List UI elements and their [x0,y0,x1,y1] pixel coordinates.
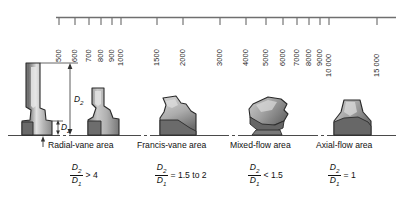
denominator-subscript: 1 [78,180,81,187]
turbine-runner-specific-speed-figure: 500 600 700 800 900 1000 1500 2000 3000 … [0,0,403,211]
axis-tick-label-1000: 1000 [116,49,125,66]
axis-tick-label-1500: 1500 [152,49,161,66]
axial-flow-runner [334,100,371,135]
fraction-numerator: D2 [249,163,261,175]
fraction-d2-over-d1: D2 D1 [248,163,261,187]
denominator-subscript: 1 [256,180,259,187]
axis-tick-label-900: 900 [107,49,116,62]
ratio-relation: = 1 [344,170,356,180]
fraction-numerator: D2 [71,163,83,175]
axis-tick-label-15000: 15 000 [372,54,381,77]
area-label-francis-vane: Francis-vane area [137,140,206,150]
radial-vane-runner [22,63,52,135]
mixed-flow-runner [249,97,288,135]
axis-tick-label-5000: 5000 [261,49,270,66]
francis-vane-runner [88,88,119,135]
dimension-large-d2-subscript: 2 [80,99,83,106]
axis-tick-label-2000: 2000 [178,49,187,66]
axis-tick-label-9000: 9000 [315,49,324,66]
axis-line-group [56,18,396,26]
area-label-mixed-flow: Mixed-flow area [230,140,291,150]
numerator-subscript: 2 [256,167,259,174]
ratio-formula-mixed-flow: D2 D1 < 1.5 [248,163,283,187]
fraction-denominator: D1 [329,176,341,188]
dimension-small-d2-subscript: 2 [67,127,70,134]
axis-tick-label-800: 800 [96,49,105,62]
francis-vane-runner-wide [160,96,196,135]
axis-tick-label-6000: 6000 [278,49,287,66]
fraction-numerator: D2 [156,163,168,175]
fraction-d2-over-d1: D2 D1 [155,163,168,187]
axis-tick-label-8000: 8000 [304,49,313,66]
ratio-relation: < 1.5 [264,170,283,180]
fraction-d2-over-d1: D2 D1 [70,163,83,187]
axis-tick-label-700: 700 [84,49,93,62]
dimension-label-large-d2: D2 [74,94,84,106]
ratio-formula-axial-flow: D2 D1 = 1 [328,163,356,187]
axis-tick-label-7000: 7000 [292,49,301,66]
radial-area-pointer-arrow [41,136,45,147]
numerator-subscript: 2 [78,167,81,174]
axis-tick-label-3000: 3000 [215,49,224,66]
denominator-subscript: 1 [163,180,166,187]
axis-tick-label-500: 500 [54,49,63,62]
fraction-d2-over-d1: D2 D1 [328,163,341,187]
ratio-formula-francis-vane: D2 D1 = 1.5 to 2 [155,163,207,187]
area-label-axial-flow: Axial-flow area [316,140,372,150]
area-label-radial-vane: Radial-vane area [48,140,113,150]
ratio-formula-radial-vane: D2 D1 > 4 [70,163,98,187]
axis-tick-label-4000: 4000 [241,49,250,66]
fraction-denominator: D1 [249,176,261,188]
fraction-denominator: D1 [71,176,83,188]
axis-tick-label-600: 600 [70,49,79,62]
ratio-relation: = 1.5 to 2 [171,170,207,180]
axis-tick-label-10000: 10 000 [324,54,333,77]
fraction-denominator: D1 [156,176,168,188]
numerator-subscript: 2 [163,167,166,174]
fraction-numerator: D2 [329,163,341,175]
numerator-subscript: 2 [336,167,339,174]
dimension-label-small-d2: D2 [61,122,71,134]
denominator-subscript: 1 [336,180,339,187]
ratio-relation: > 4 [86,170,98,180]
